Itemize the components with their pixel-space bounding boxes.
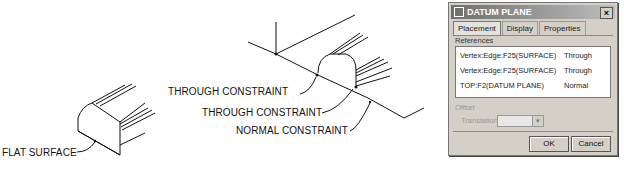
chevron-down-icon: ▾ [536, 117, 540, 124]
dialog-titlebar[interactable]: DATUM PLANE × [451, 5, 615, 19]
reference-row[interactable]: TOP:F2(DATUM PLANE) Normal [460, 81, 606, 93]
tab-placement[interactable]: Placement [453, 21, 501, 35]
ok-button[interactable]: OK [529, 136, 569, 152]
close-icon: × [604, 8, 609, 18]
offset-label: Offset [455, 103, 475, 112]
references-label: References [455, 36, 493, 45]
reference-row[interactable]: Vertex:Edge:F25(SURFACE) Through [460, 51, 606, 63]
dialog-title: DATUM PLANE [467, 5, 532, 19]
reference-type[interactable]: Normal [564, 81, 588, 90]
translation-input[interactable] [497, 115, 533, 127]
through-constraint-callout-2: THROUGH CONSTRAINT [202, 107, 322, 118]
button-separator [453, 131, 613, 132]
reference-name: TOP:F2(DATUM PLANE) [460, 81, 544, 90]
tab-properties[interactable]: Properties [539, 21, 585, 35]
through-constraint-callout-1: THROUGH CONSTRAINT [168, 86, 288, 97]
datum-plane-icon [454, 7, 464, 17]
translation-label: Translation [461, 116, 498, 125]
reference-name: Vertex:Edge:F25(SURFACE) [460, 51, 556, 60]
references-list[interactable]: Vertex:Edge:F25(SURFACE) Through Vertex:… [455, 46, 611, 98]
flat-surface-callout: FLAT SURFACE [2, 147, 77, 158]
normal-constraint-callout: NORMAL CONSTRAINT [236, 125, 348, 136]
reference-row[interactable]: Vertex:Edge:F25(SURFACE) Through [460, 66, 606, 78]
dialog-tabs: Placement Display Properties [453, 21, 587, 35]
translation-dropdown-button[interactable]: ▾ [532, 115, 544, 127]
reference-type[interactable]: Through [564, 66, 592, 75]
reference-type[interactable]: Through [564, 51, 592, 60]
cancel-button[interactable]: Cancel [571, 136, 611, 152]
tab-display[interactable]: Display [502, 21, 538, 35]
placement-panel: References Vertex:Edge:F25(SURFACE) Thro… [453, 35, 613, 154]
close-button[interactable]: × [600, 7, 613, 19]
reference-name: Vertex:Edge:F25(SURFACE) [460, 66, 556, 75]
datum-plane-dialog: DATUM PLANE × Placement Display Properti… [448, 2, 618, 156]
